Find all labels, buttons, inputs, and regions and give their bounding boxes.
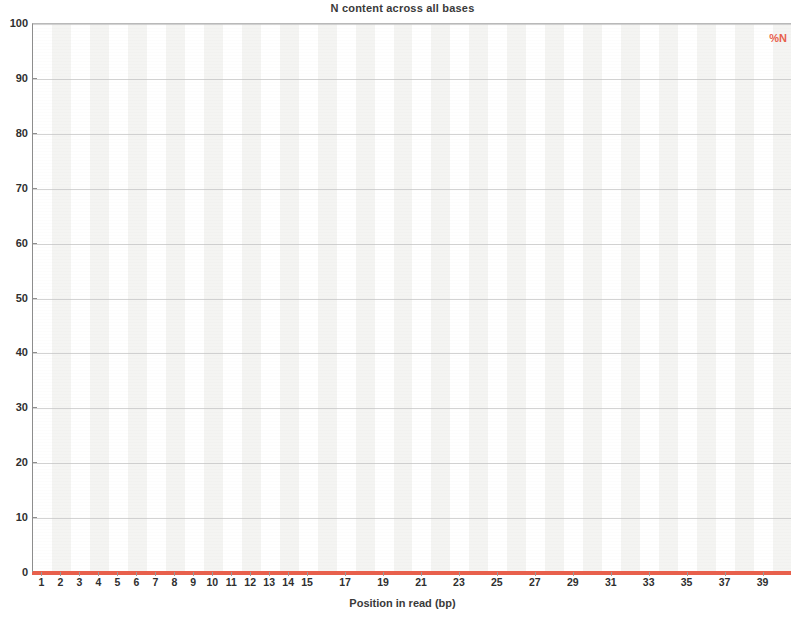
x-tick-mark <box>421 572 422 576</box>
x-tick-label: 10 <box>206 576 218 588</box>
x-tick-mark <box>459 572 460 576</box>
y-tick-label: 40 <box>0 346 28 358</box>
x-tick-mark <box>136 572 137 576</box>
x-tick-label: 1 <box>39 576 45 588</box>
x-tick-mark <box>98 572 99 576</box>
x-tick-mark <box>212 572 213 576</box>
x-tick-mark <box>383 572 384 576</box>
x-tick-label: 2 <box>58 576 64 588</box>
x-tick-label: 13 <box>263 576 275 588</box>
x-tick-mark <box>231 572 232 576</box>
x-tick-label: 25 <box>491 576 503 588</box>
x-tick-mark <box>79 572 80 576</box>
y-tick-label: 30 <box>0 401 28 413</box>
x-tick-mark <box>193 572 194 576</box>
x-tick-mark <box>288 572 289 576</box>
x-tick-mark <box>763 572 764 576</box>
y-tick-label: 20 <box>0 456 28 468</box>
x-tick-label: 11 <box>226 576 237 588</box>
x-tick-label: 27 <box>529 576 541 588</box>
x-tick-label: 7 <box>152 576 158 588</box>
x-tick-mark <box>535 572 536 576</box>
x-tick-label: 9 <box>190 576 196 588</box>
x-axis: 1234567891011121314151719212325272931333… <box>0 576 805 594</box>
x-tick-label: 4 <box>95 576 101 588</box>
plot-area: %N <box>32 23 791 572</box>
x-tick-mark <box>687 572 688 576</box>
x-tick-label: 15 <box>301 576 313 588</box>
x-tick-label: 39 <box>757 576 769 588</box>
x-axis-line <box>32 572 791 575</box>
y-tick-label: 70 <box>0 182 28 194</box>
x-tick-label: 31 <box>605 576 617 588</box>
x-tick-label: 3 <box>77 576 83 588</box>
x-tick-label: 35 <box>681 576 693 588</box>
x-tick-mark <box>573 572 574 576</box>
y-tick-label: 80 <box>0 127 28 139</box>
y-tick-mark <box>32 298 37 299</box>
x-tick-label: 29 <box>567 576 579 588</box>
x-tick-mark <box>60 572 61 576</box>
y-tick-label: 10 <box>0 511 28 523</box>
x-tick-label: 19 <box>377 576 389 588</box>
y-tick-mark <box>32 133 37 134</box>
x-tick-mark <box>117 572 118 576</box>
x-tick-mark <box>155 572 156 576</box>
x-tick-mark <box>345 572 346 576</box>
x-tick-label: 5 <box>114 576 120 588</box>
x-tick-mark <box>250 572 251 576</box>
x-tick-mark <box>307 572 308 576</box>
y-tick-mark <box>32 462 37 463</box>
y-tick-label: 100 <box>0 17 28 29</box>
y-tick-mark <box>32 243 37 244</box>
x-tick-label: 14 <box>282 576 294 588</box>
x-tick-label: 33 <box>643 576 655 588</box>
x-tick-mark <box>497 572 498 576</box>
x-tick-label: 6 <box>133 576 139 588</box>
chart-title: N content across all bases <box>0 2 805 14</box>
x-tick-mark <box>649 572 650 576</box>
legend-item-percent-n: %N <box>769 32 787 44</box>
y-tick-mark <box>32 352 37 353</box>
y-tick-mark <box>32 78 37 79</box>
y-tick-mark <box>32 517 37 518</box>
series-layer <box>33 24 791 572</box>
x-tick-mark <box>725 572 726 576</box>
x-tick-label: 37 <box>719 576 731 588</box>
y-axis: 0102030405060708090100 <box>0 0 28 620</box>
y-tick-label: 90 <box>0 72 28 84</box>
x-tick-label: 23 <box>453 576 465 588</box>
y-tick-label: 60 <box>0 237 28 249</box>
x-tick-mark <box>41 572 42 576</box>
x-tick-mark <box>269 572 270 576</box>
x-tick-label: 21 <box>415 576 427 588</box>
x-tick-label: 12 <box>244 576 256 588</box>
y-tick-label: 50 <box>0 292 28 304</box>
x-axis-title: Position in read (bp) <box>0 597 805 609</box>
n-content-chart: N content across all bases %N 0102030405… <box>0 0 805 620</box>
y-tick-mark <box>32 188 37 189</box>
x-tick-mark <box>611 572 612 576</box>
x-tick-label: 8 <box>171 576 177 588</box>
x-tick-label: 17 <box>339 576 351 588</box>
y-tick-mark <box>32 407 37 408</box>
x-tick-mark <box>174 572 175 576</box>
